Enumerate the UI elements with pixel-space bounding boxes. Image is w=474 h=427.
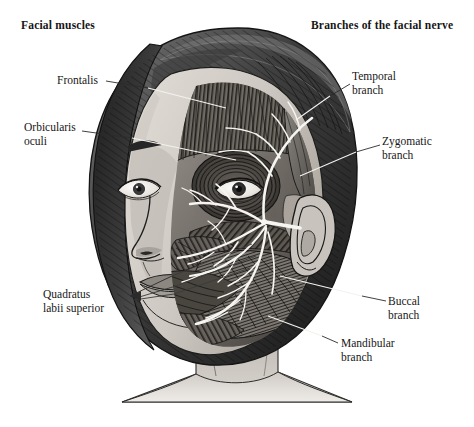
figure-title-right: Branches of the facial nerve [311,19,453,31]
label-temporal-branch: Temporal branch [352,70,396,97]
figure-title-left: Facial muscles [21,19,95,31]
label-frontalis: Frontalis [57,74,98,88]
label-zygomatic-branch: Zygomatic branch [382,135,432,162]
label-mandibular-branch: Mandibular branch [341,337,395,364]
illustration-canvas [0,0,474,427]
anatomical-figure: Facial muscles Branches of the facial ne… [0,0,474,427]
label-orbicularis-oculi: Orbicularis oculi [24,121,76,148]
label-buccal-branch: Buccal branch [388,295,420,322]
label-quadratus-labii-superior: Quadratus labii superior [43,288,104,315]
